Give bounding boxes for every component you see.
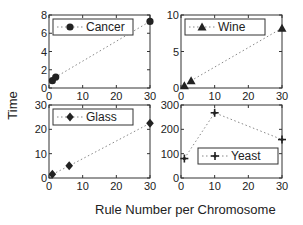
svg-text:30: 30 <box>144 90 156 102</box>
svg-text:Yeast: Yeast <box>231 149 261 163</box>
svg-text:30: 30 <box>276 90 288 102</box>
svg-text:10: 10 <box>209 90 221 102</box>
svg-text:10: 10 <box>167 9 179 21</box>
subplot-yeast: 01020300100200300Yeast <box>161 99 288 192</box>
svg-text:4: 4 <box>41 46 47 58</box>
svg-text:6: 6 <box>41 27 47 39</box>
svg-text:20: 20 <box>242 180 254 192</box>
svg-text:8: 8 <box>41 9 47 21</box>
svg-text:10: 10 <box>77 90 89 102</box>
svg-text:20: 20 <box>242 90 254 102</box>
legend-wine: Wine <box>185 19 265 35</box>
svg-text:100: 100 <box>161 148 179 160</box>
svg-text:Glass: Glass <box>86 110 117 124</box>
svg-text:10: 10 <box>209 180 221 192</box>
svg-text:2: 2 <box>41 64 47 76</box>
svg-text:10: 10 <box>35 148 47 160</box>
svg-text:20: 20 <box>35 123 47 135</box>
svg-text:20: 20 <box>110 180 122 192</box>
legend-yeast: Yeast <box>198 148 278 164</box>
svg-text:0: 0 <box>173 82 179 94</box>
svg-text:30: 30 <box>276 180 288 192</box>
svg-text:Wine: Wine <box>218 20 246 34</box>
legend-glass: Glass <box>53 109 133 125</box>
svg-text:10: 10 <box>77 180 89 192</box>
svg-text:Cancer: Cancer <box>86 20 125 34</box>
svg-text:30: 30 <box>144 180 156 192</box>
svg-text:200: 200 <box>161 123 179 135</box>
subplot-wine: 01020300510Wine <box>167 9 288 102</box>
subplot-glass: 01020300102030Glass <box>35 99 156 192</box>
chart-figure: 010203002468Cancer01020300510Wine0102030… <box>0 0 303 225</box>
svg-text:300: 300 <box>161 99 179 111</box>
svg-text:0: 0 <box>41 82 47 94</box>
subplot-cancer: 010203002468Cancer <box>41 9 156 102</box>
svg-text:0: 0 <box>41 172 47 184</box>
svg-text:20: 20 <box>110 90 122 102</box>
svg-text:30: 30 <box>35 99 47 111</box>
svg-text:5: 5 <box>173 46 179 58</box>
legend-cancer: Cancer <box>53 19 133 35</box>
svg-text:0: 0 <box>173 172 179 184</box>
x-axis-label: Rule Number per Chromosome <box>95 202 276 217</box>
y-axis-label: Time <box>5 91 20 119</box>
figure: 010203002468Cancer01020300510Wine0102030… <box>0 0 303 225</box>
